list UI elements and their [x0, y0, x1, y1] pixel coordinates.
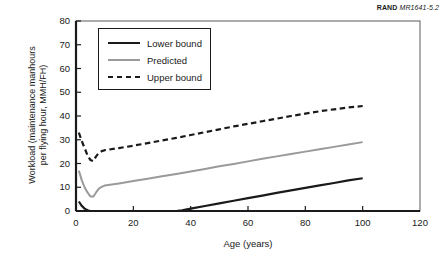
- legend-label-lower-bound: Lower bound: [147, 38, 202, 49]
- legend-swatch-lower-bound-icon: [108, 38, 140, 48]
- y-axis-title-line2: per flying hour, MMH/FH): [38, 65, 48, 166]
- y-tick-label: 30: [48, 135, 70, 145]
- source-code: MR1641-5.2: [399, 4, 439, 11]
- y-axis-title-line1: Workload (maintenance manhours: [27, 46, 37, 183]
- y-axis-title: Workload (maintenance manhours per flyin…: [27, 15, 49, 215]
- chart-legend: Lower bound Predicted Upper bound: [98, 28, 211, 90]
- x-tick-label: 120: [405, 218, 435, 228]
- legend-swatch-upper-bound-icon: [108, 72, 140, 82]
- y-tick-label: 10: [48, 182, 70, 192]
- series-line-predicted: [79, 142, 363, 197]
- source-brand: RAND: [377, 4, 398, 11]
- legend-item-lower-bound: Lower bound: [108, 35, 202, 51]
- x-tick-label: 20: [118, 218, 148, 228]
- legend-label-upper-bound: Upper bound: [147, 72, 202, 83]
- x-axis-title: Age (years): [76, 238, 420, 249]
- legend-item-upper-bound: Upper bound: [108, 69, 202, 85]
- source-tag: RAND MR1641-5.2: [377, 3, 439, 13]
- x-tick-label: 100: [348, 218, 378, 228]
- series-line-upper-bound: [79, 106, 363, 161]
- y-tick-label: 50: [48, 87, 70, 97]
- x-tick-label: 0: [61, 218, 91, 228]
- x-tick-label: 60: [233, 218, 263, 228]
- y-tick-label: 20: [48, 159, 70, 169]
- y-tick-label: 60: [48, 64, 70, 74]
- y-tick-label: 70: [48, 40, 70, 50]
- legend-swatch-predicted-icon: [108, 55, 140, 65]
- y-tick-label: 40: [48, 111, 70, 121]
- x-tick-label: 40: [176, 218, 206, 228]
- chart-figure: RAND MR1641-5.2 Workload (maintenance ma…: [0, 0, 445, 262]
- legend-item-predicted: Predicted: [108, 52, 187, 68]
- legend-label-predicted: Predicted: [147, 55, 187, 66]
- y-tick-label: 80: [48, 16, 70, 26]
- x-tick-label: 80: [290, 218, 320, 228]
- y-tick-label: 0: [48, 206, 70, 216]
